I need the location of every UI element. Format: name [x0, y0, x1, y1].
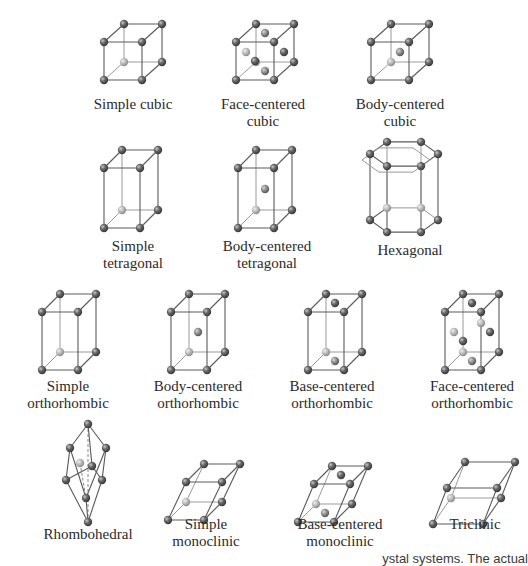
label-line: cubic — [193, 113, 333, 130]
label-line: Base-centered — [270, 516, 410, 533]
label-line: orthorhombic — [0, 395, 138, 412]
label-line: tetragonal — [197, 255, 337, 272]
triclinic-unit-cell-icon — [425, 446, 528, 556]
label-base-centered-monoclinic: Base-centeredmonoclinic — [270, 516, 410, 550]
label-line: orthorhombic — [262, 395, 402, 412]
body-centered-orthorhombic-unit-cell-icon — [165, 280, 275, 390]
label-simple-tetragonal: Simpletetragonal — [63, 238, 203, 272]
label-simple-orthorhombic: Simpleorthorhombic — [0, 378, 138, 412]
label-base-centered-orthorhombic: Base-centeredorthorhombic — [262, 378, 402, 412]
label-line: Triclinic — [405, 516, 528, 533]
simple-tetragonal-unit-cell-icon — [98, 140, 208, 250]
label-triclinic: Triclinic — [405, 516, 528, 533]
label-line: tetragonal — [63, 255, 203, 272]
label-line: Base-centered — [262, 378, 402, 395]
label-line: Simple — [136, 516, 276, 533]
label-face-centered-orthorhombic: Face-centeredorthorhombic — [402, 378, 528, 412]
label-body-centered-tetragonal: Body-centeredtetragonal — [197, 238, 337, 272]
label-hexagonal: Hexagonal — [340, 242, 480, 259]
label-line: Body-centered — [330, 96, 470, 113]
label-line: monoclinic — [270, 533, 410, 550]
label-line: orthorhombic — [128, 395, 268, 412]
label-line: Simple — [63, 238, 203, 255]
label-line: Simple cubic — [63, 96, 203, 113]
label-line: orthorhombic — [402, 395, 528, 412]
label-line: cubic — [330, 113, 470, 130]
base-centered-orthorhombic-unit-cell-icon — [298, 280, 408, 390]
label-line: Hexagonal — [340, 242, 480, 259]
body-centered-tetragonal-unit-cell-icon — [232, 140, 342, 250]
label-face-centered-cubic: Face-centeredcubic — [193, 96, 333, 130]
label-body-centered-cubic: Body-centeredcubic — [330, 96, 470, 130]
label-simple-monoclinic: Simplemonoclinic — [136, 516, 276, 550]
figure-caption-fragment: ystal systems. The actual — [0, 551, 528, 566]
label-line: Face-centered — [193, 96, 333, 113]
rhombohedral-unit-cell-icon — [30, 418, 140, 533]
label-line: Simple — [0, 378, 138, 395]
label-simple-cubic: Simple cubic — [63, 96, 203, 113]
label-body-centered-orthorhombic: Body-centeredorthorhombic — [128, 378, 268, 412]
label-line: monoclinic — [136, 533, 276, 550]
simple-orthorhombic-unit-cell-icon — [32, 280, 142, 390]
label-line: Face-centered — [402, 378, 528, 395]
hexagonal-unit-cell-icon — [352, 132, 462, 252]
label-line: Body-centered — [197, 238, 337, 255]
label-line: Body-centered — [128, 378, 268, 395]
face-centered-orthorhombic-unit-cell-icon — [437, 278, 528, 388]
